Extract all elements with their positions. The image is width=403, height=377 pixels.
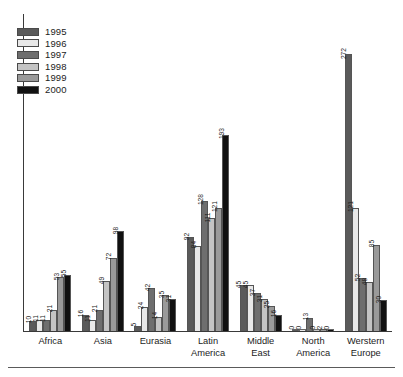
- category-label: Eurasia: [129, 336, 182, 359]
- category-label: Latin America: [182, 336, 235, 359]
- bar-item: 0: [299, 329, 306, 332]
- bar-value-label: 49: [100, 276, 107, 283]
- bar-value-label: 55: [61, 270, 68, 277]
- bar-item: 72: [110, 258, 117, 331]
- bar-value-label: 98: [114, 227, 121, 234]
- bar-1998: [103, 281, 110, 331]
- bar-group: 161121497298: [77, 14, 130, 331]
- bar-item: 5: [134, 326, 141, 331]
- legend-item-1996: 1996: [17, 38, 67, 50]
- bar-cluster: 27212152488530: [345, 54, 387, 331]
- x-axis-line: [23, 331, 392, 332]
- bar-groups: 1011112153551611214972985244214353192841…: [24, 14, 392, 331]
- bar-group: 9284128111121193: [182, 14, 235, 331]
- bar-item: 53: [57, 277, 64, 331]
- bar-cluster: 161121497298: [82, 231, 124, 331]
- bar-value-label: 11: [86, 315, 93, 322]
- bar-1997: [148, 288, 155, 331]
- bar-1997: [359, 278, 366, 331]
- bar-item: 121: [215, 208, 222, 331]
- bar-value-label: 0: [296, 326, 303, 330]
- bar-value-label: 272: [342, 48, 349, 59]
- bar-item: 21: [96, 310, 103, 331]
- bar-item: 14: [155, 317, 162, 331]
- bar-item: 11: [89, 320, 96, 331]
- bar-value-label: 121: [212, 201, 219, 212]
- bar-item: 16: [275, 315, 282, 331]
- bar-group: 0013020: [287, 14, 340, 331]
- category-label: Middle East: [234, 336, 287, 359]
- bar-item: 49: [103, 281, 110, 331]
- bar-1998: [366, 282, 373, 331]
- bar-cluster: 9284128111121193: [187, 135, 229, 331]
- bottom-divider: [8, 367, 395, 368]
- legend-swatch-1999: [17, 74, 39, 82]
- bar-value-label: 0: [324, 326, 331, 330]
- bar-value-label: 31: [166, 295, 173, 302]
- bar-value-label: 92: [184, 233, 191, 240]
- bar-1996: [352, 208, 359, 331]
- legend-label-1997: 1997: [45, 50, 67, 60]
- bar-1995: [240, 285, 247, 331]
- bar-value-label: 21: [93, 305, 100, 312]
- legend-item-1997: 1997: [17, 49, 67, 61]
- bar-1999: [110, 258, 117, 331]
- bar-1999: [57, 277, 64, 331]
- bar-item: 45: [240, 285, 247, 331]
- bar-1998: [208, 218, 215, 331]
- bar-cluster: 101111215355: [29, 275, 71, 331]
- bar-item: 272: [345, 54, 352, 331]
- category-label: North America: [287, 336, 340, 359]
- bar-chart: 199519961997199819992000 101111215355161…: [0, 0, 403, 377]
- bar-item: 121: [352, 208, 359, 331]
- legend-label-1995: 1995: [45, 27, 67, 37]
- legend-item-1998: 1998: [17, 61, 67, 73]
- bar-item: 0: [327, 329, 334, 332]
- bar-1998: [50, 310, 57, 331]
- bar-item: 52: [359, 278, 366, 331]
- category-label: Africa: [24, 336, 77, 359]
- chart-legend: 199519961997199819992000: [17, 26, 67, 96]
- legend-label-1998: 1998: [45, 62, 67, 72]
- bar-1999: [373, 245, 380, 331]
- bar-item: 193: [222, 135, 229, 331]
- category-label: Asia: [77, 336, 130, 359]
- bar-value-label: 16: [272, 310, 279, 317]
- bar-2000: [117, 231, 124, 331]
- bar-value-label: 48: [363, 278, 370, 285]
- category-axis-labels: AfricaAsiaEurasiaLatin AmericaMiddle Eas…: [24, 336, 392, 359]
- bar-1999: [215, 208, 222, 331]
- legend-item-1995: 1995: [17, 26, 67, 38]
- bar-value-label: 84: [191, 241, 198, 248]
- category-label: Werstern Europe: [339, 336, 392, 359]
- legend-swatch-2000: [17, 86, 39, 94]
- bar-item: 98: [117, 231, 124, 331]
- bar-group: 27212152488530: [339, 14, 392, 331]
- bar-item: 24: [141, 307, 148, 331]
- legend-item-2000: 2000: [17, 84, 67, 96]
- bar-group: 454537312516: [234, 14, 287, 331]
- bar-item: 11: [43, 320, 50, 331]
- bar-1995: [187, 237, 194, 331]
- bar-value-label: 128: [198, 194, 205, 205]
- bar-cluster: 0013020: [292, 318, 334, 331]
- legend-swatch-1996: [17, 39, 39, 47]
- bar-item: 21: [50, 310, 57, 331]
- bar-1995: [345, 54, 352, 331]
- bar-value-label: 45: [244, 281, 251, 288]
- legend-label-2000: 2000: [45, 85, 67, 95]
- bar-cluster: 454537312516: [240, 285, 282, 331]
- bar-value-label: 5: [131, 323, 138, 327]
- legend-swatch-1998: [17, 63, 39, 71]
- bar-value-label: 85: [370, 240, 377, 247]
- bar-2000: [169, 299, 176, 331]
- bar-1997: [96, 310, 103, 331]
- bar-1995: [134, 326, 141, 331]
- bar-value-label: 25: [265, 301, 272, 308]
- bar-value-label: 21: [47, 305, 54, 312]
- bar-value-label: 111: [205, 212, 212, 222]
- legend-swatch-1995: [17, 28, 39, 36]
- bar-item: 84: [194, 246, 201, 331]
- bar-item: 92: [187, 237, 194, 331]
- legend-item-1999: 1999: [17, 72, 67, 84]
